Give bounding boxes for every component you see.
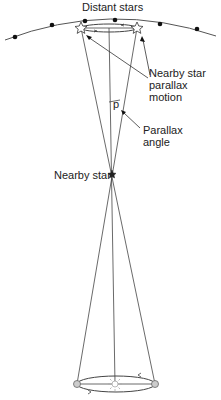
star-icon <box>75 22 87 33</box>
arrow-left-icon <box>138 373 141 377</box>
earth-right-icon <box>152 381 159 388</box>
earth-left-icon <box>74 381 81 388</box>
pointer-line <box>88 37 148 78</box>
pointer-line <box>124 113 140 128</box>
distant-stars-label: Distant stars <box>82 1 143 13</box>
parallax-motion-label: Nearby star parallax motion <box>149 67 206 103</box>
arrow-right-icon <box>88 390 91 394</box>
parallax-angle-label: Parallax angle <box>143 124 183 148</box>
arrowhead-icon <box>140 36 145 42</box>
diagram-canvas <box>0 0 221 400</box>
p-label: p <box>113 98 119 110</box>
star-icon <box>131 22 143 33</box>
sight-lines <box>77 28 155 384</box>
celestial-sphere-arc <box>5 19 216 40</box>
nearby-star-label: Nearby star <box>54 169 111 181</box>
